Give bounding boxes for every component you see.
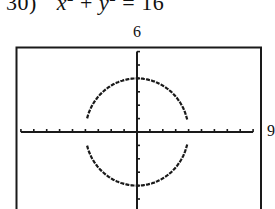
graph-window [0,0,275,209]
